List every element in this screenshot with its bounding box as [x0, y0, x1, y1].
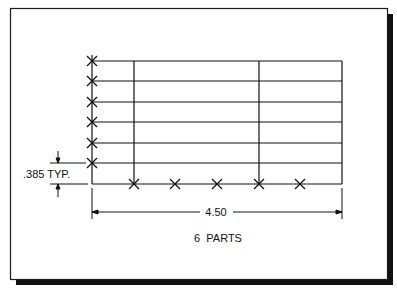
horizontal-dimension-label: 4.50: [205, 206, 226, 218]
frame-shadow-right: [388, 14, 393, 285]
technical-drawing: .385 TYP. 4.50 6 PARTS: [0, 0, 397, 288]
frame-shadow-bottom: [16, 280, 393, 285]
parts-note: 6 PARTS: [194, 232, 242, 244]
vertical-dimension-label: .385 TYP.: [23, 168, 70, 180]
